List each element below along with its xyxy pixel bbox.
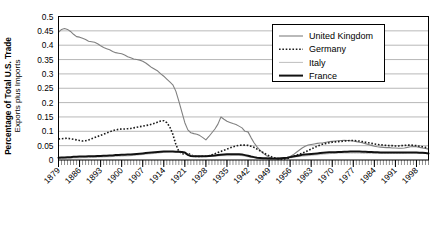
series-line-france [59, 151, 429, 158]
legend-label: Italy [309, 58, 326, 68]
chart-figure: Percentage of Total U.S. Trade Exports p… [0, 0, 442, 228]
y-axis-title: Percentage of Total U.S. Trade Exports p… [4, 37, 22, 155]
x-tick-label: 1942 [231, 165, 251, 185]
x-tick-label: 1914 [147, 165, 167, 185]
x-tick-label: 1886 [63, 165, 83, 185]
x-tick-label: 1949 [252, 165, 272, 185]
x-tick-label: 1991 [379, 165, 399, 185]
x-tick-label: 1928 [189, 165, 209, 185]
y-tick-label: 0.25 [37, 83, 54, 93]
x-tick-label: 1921 [168, 165, 188, 185]
y-tick-label: 0.35 [37, 55, 54, 65]
x-tick-labels: 1879188618931900190719141921192819351942… [42, 165, 420, 185]
x-major-ticks [59, 160, 417, 167]
y-tick-label: 0.5 [42, 12, 54, 22]
y-tick-label: 0.2 [42, 98, 54, 108]
legend-label: Germany [309, 44, 347, 54]
y-tick-label: 0 [49, 155, 54, 165]
chart-legend: United KingdomGermanyItalyFrance [273, 25, 385, 82]
y-axis-title-sub: Exports plus Imports [13, 60, 22, 133]
x-tick-label: 1963 [294, 165, 314, 185]
x-tick-label: 1907 [126, 165, 146, 185]
x-tick-label: 1935 [210, 165, 230, 185]
y-tick-label: 0.1 [42, 126, 54, 136]
x-tick-label: 1977 [336, 165, 356, 185]
x-tick-label: 1956 [273, 165, 293, 185]
x-tick-label: 1893 [84, 165, 104, 185]
x-tick-label: 1879 [42, 165, 62, 185]
y-tick-label: 0.3 [42, 69, 54, 79]
x-tick-label: 1984 [358, 165, 378, 185]
x-tick-label: 1998 [400, 165, 420, 185]
y-tick-label: 0.45 [37, 26, 54, 36]
y-tick-label: 0.05 [37, 141, 54, 151]
y-tick-label: 0.4 [42, 40, 54, 50]
legend-label: France [309, 71, 337, 81]
x-tick-label: 1900 [105, 165, 125, 185]
x-minor-ticks [59, 160, 429, 165]
y-tick-label: 0.15 [37, 112, 54, 122]
legend-label: United Kingdom [309, 31, 373, 41]
line-chart: Percentage of Total U.S. Trade Exports p… [0, 0, 442, 228]
y-tick-labels: 00.050.10.150.20.250.30.350.40.450.5 [37, 12, 54, 166]
x-tick-label: 1970 [315, 165, 335, 185]
y-axis-title-main: Percentage of Total U.S. Trade [4, 37, 13, 155]
